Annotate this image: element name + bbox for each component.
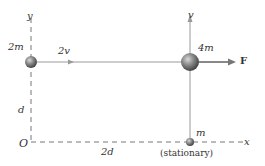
- dimension-label-d: d: [18, 104, 24, 115]
- diagram-canvas: [0, 0, 265, 166]
- ball-4m-icon: [181, 53, 199, 71]
- velocity-label-2v: 2v: [58, 45, 70, 56]
- ball-m-icon: [186, 138, 194, 146]
- velocity-label-v: v: [188, 9, 194, 20]
- y-axis-label: y: [27, 10, 33, 21]
- dimension-label-2d: 2d: [101, 146, 114, 157]
- force-arrow-head-icon: [228, 59, 236, 66]
- mass-label-2m: 2m: [8, 41, 24, 52]
- velocity-arrow-2v-icon: [68, 60, 74, 65]
- origin-label: O: [19, 137, 28, 150]
- ball-2m-icon: [25, 56, 37, 68]
- x-axis-label: x: [244, 136, 250, 147]
- mass-label-m: m: [196, 127, 205, 138]
- mass-label-4m: 4m: [198, 42, 214, 53]
- force-label-F: F: [240, 55, 247, 66]
- stationary-note: (stationary): [160, 148, 213, 158]
